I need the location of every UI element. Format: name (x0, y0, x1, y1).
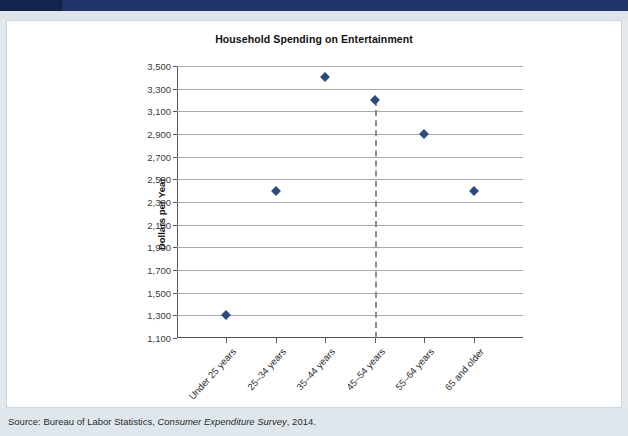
y-axis-title: Dollars per Year (156, 178, 167, 250)
x-tick-mark (325, 338, 326, 343)
y-tick-label: 3,500 (147, 61, 171, 72)
figure-footer: Source: Bureau of Labor Statistics, Cons… (0, 409, 628, 436)
gridline (177, 247, 523, 248)
y-tick-mark (173, 134, 177, 135)
x-tick-mark (226, 338, 227, 343)
data-point-marker (370, 95, 380, 105)
y-tick-label: 2,300 (147, 197, 171, 208)
gridline (177, 225, 523, 226)
source-publication: Consumer Expenditure Survey (157, 416, 286, 427)
data-point-marker (320, 72, 330, 82)
source-prefix: Source: Bureau of Labor Statistics, (8, 416, 157, 427)
data-point-marker (271, 186, 281, 196)
y-tick-mark (173, 247, 177, 248)
y-tick-label: 2,700 (147, 151, 171, 162)
y-tick-mark (173, 179, 177, 180)
x-tick-mark (474, 338, 475, 343)
x-tick-label: 45–54 years (344, 346, 387, 392)
source-suffix: , 2014. (287, 416, 316, 427)
y-tick-mark (173, 157, 177, 158)
y-tick-mark (173, 202, 177, 203)
y-tick-label: 1,500 (147, 287, 171, 298)
chart-title: Household Spending on Entertainment (7, 33, 621, 45)
gridline (177, 111, 523, 112)
gridline (177, 89, 523, 90)
data-point-marker (469, 186, 479, 196)
gridline (177, 293, 523, 294)
x-tick-label: 55–64 years (393, 346, 436, 392)
y-tick-label: 2,500 (147, 174, 171, 185)
header-gap (0, 11, 628, 20)
y-tick-label: 2,100 (147, 219, 171, 230)
y-tick-label: 1,700 (147, 265, 171, 276)
y-tick-label: 3,100 (147, 106, 171, 117)
gridline (177, 179, 523, 180)
plot-area: 3,5003,3003,1002,9002,7002,5002,3002,100… (177, 66, 523, 338)
gridline (177, 157, 523, 158)
data-point-marker (419, 129, 429, 139)
y-tick-mark (173, 315, 177, 316)
x-tick-label: 35–44 years (294, 346, 337, 392)
x-tick-label: Under 25 years (187, 346, 239, 402)
data-point-marker (221, 310, 231, 320)
gridline (177, 270, 523, 271)
x-tick-mark (424, 338, 425, 343)
y-tick-mark (173, 225, 177, 226)
x-axis-line (177, 337, 523, 338)
chart-card: Household Spending on Entertainment Doll… (6, 20, 622, 408)
figure-header-tab (0, 0, 62, 11)
y-tick-mark (173, 66, 177, 67)
gridline (177, 66, 523, 67)
y-tick-label: 3,300 (147, 83, 171, 94)
x-tick-label: 65 and older (442, 346, 486, 393)
y-tick-mark (173, 89, 177, 90)
annotation-vertical-line (375, 100, 377, 338)
y-tick-mark (173, 338, 177, 339)
source-note: Source: Bureau of Labor Statistics, Cons… (8, 416, 316, 427)
x-tick-mark (375, 338, 376, 343)
x-tick-label: 25–34 years (245, 346, 288, 392)
gridline (177, 134, 523, 135)
y-tick-label: 2,900 (147, 129, 171, 140)
gridline (177, 202, 523, 203)
figure-header-bar (0, 0, 628, 11)
x-tick-mark (276, 338, 277, 343)
y-tick-mark (173, 111, 177, 112)
y-tick-mark (173, 293, 177, 294)
y-tick-mark (173, 270, 177, 271)
y-tick-label: 1,900 (147, 242, 171, 253)
figure-page: Household Spending on Entertainment Doll… (0, 0, 628, 436)
y-tick-label: 1,100 (147, 333, 171, 344)
y-tick-label: 1,300 (147, 310, 171, 321)
